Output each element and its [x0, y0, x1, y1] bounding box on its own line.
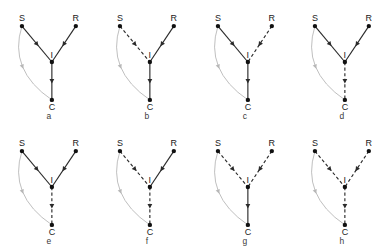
- edge-i-to-c-h: [343, 187, 348, 225]
- edge-i-to-c-g: [245, 187, 250, 225]
- edge-i-to-c-d: [343, 62, 348, 100]
- node-s-label: S: [214, 138, 220, 148]
- panel-a: SRICa: [0, 0, 98, 125]
- panel-caption-h: h: [340, 236, 345, 246]
- edge-s-to-i-d: [315, 26, 345, 62]
- edge-s-to-c-arc-a-path: [19, 26, 52, 100]
- node-r-dot: [74, 149, 78, 153]
- node-r-label: R: [366, 138, 373, 148]
- edge-s-to-c-arc-f-path: [116, 151, 149, 225]
- node-i-dot: [343, 185, 347, 189]
- panel-caption-e: e: [47, 236, 52, 246]
- edge-i-to-c-b: [147, 62, 152, 100]
- node-i-dot: [50, 60, 54, 64]
- panel-f: SRICf: [98, 125, 196, 250]
- panel-b: SRICb: [98, 0, 196, 125]
- node-i-dot: [50, 185, 54, 189]
- panel-f-canvas: SRICf: [98, 125, 196, 250]
- edge-s-to-c-arc-c-path: [214, 26, 247, 100]
- node-i-label: I: [51, 50, 54, 60]
- edge-i-to-c-a: [49, 62, 54, 100]
- panel-caption-b: b: [144, 111, 149, 121]
- node-r-label: R: [73, 138, 80, 148]
- edge-s-to-i-c: [217, 26, 247, 62]
- edge-s-to-i-g: [217, 151, 247, 187]
- panel-a-canvas: SRICa: [0, 0, 98, 125]
- node-s-dot: [20, 149, 24, 153]
- edge-s-to-i-g-arrowhead-icon: [229, 166, 234, 171]
- node-r-dot: [269, 149, 273, 153]
- panel-caption-a: a: [47, 111, 52, 121]
- node-s-label: S: [19, 13, 25, 23]
- edge-s-to-i-b: [120, 26, 150, 62]
- edge-s-to-c-arc-g-path: [214, 151, 247, 225]
- node-s-dot: [313, 149, 317, 153]
- edge-i-to-c-c: [245, 62, 250, 100]
- node-i-dot: [343, 60, 347, 64]
- panel-d-canvas: SRICd: [293, 0, 391, 125]
- node-s-dot: [215, 149, 219, 153]
- node-r-dot: [171, 24, 175, 28]
- edge-s-to-i-b-arrowhead-icon: [132, 41, 137, 46]
- panel-e: SRICe: [0, 125, 98, 250]
- node-s-dot: [117, 24, 121, 28]
- node-i-label: I: [344, 50, 347, 60]
- edge-r-to-i-a: [52, 26, 76, 62]
- edge-s-to-c-arc-f: [116, 151, 149, 225]
- panel-b-canvas: SRICb: [98, 0, 196, 125]
- edge-i-to-c-g-arrowhead-icon: [245, 204, 250, 209]
- node-i-dot: [245, 60, 249, 64]
- edge-s-to-c-arc-b-path: [116, 26, 149, 100]
- edge-s-to-i-f: [120, 151, 150, 187]
- node-s-label: S: [214, 13, 220, 23]
- edge-i-to-c-e-arrowhead-icon: [49, 204, 54, 209]
- node-i-dot: [147, 60, 151, 64]
- edge-r-to-i-g: [247, 151, 271, 187]
- node-r-dot: [74, 24, 78, 28]
- node-r-dot: [171, 149, 175, 153]
- node-i-label: I: [246, 175, 249, 185]
- node-r-label: R: [366, 13, 373, 23]
- edge-i-to-c-f: [147, 187, 152, 225]
- edge-s-to-c-arc-d: [312, 26, 345, 100]
- panel-caption-c: c: [242, 111, 247, 121]
- edge-s-to-c-arc-g: [214, 151, 247, 225]
- edge-s-to-c-arc-h-path: [312, 151, 345, 225]
- node-s-label: S: [117, 13, 123, 23]
- edge-s-to-c-arc-e: [19, 151, 52, 225]
- node-s-label: S: [117, 138, 123, 148]
- node-s-label: S: [312, 138, 318, 148]
- edge-i-to-c-b-arrowhead-icon: [147, 79, 152, 84]
- edge-s-to-i-h: [315, 151, 345, 187]
- node-s-dot: [117, 149, 121, 153]
- node-r-label: R: [170, 138, 177, 148]
- panel-g: SRICg: [196, 125, 294, 250]
- node-i-label: I: [344, 175, 347, 185]
- edge-r-to-i-e: [52, 151, 76, 187]
- node-i-label: I: [148, 175, 151, 185]
- node-i-dot: [245, 185, 249, 189]
- panel-caption-d: d: [340, 111, 345, 121]
- node-s-label: S: [312, 13, 318, 23]
- node-r-label: R: [73, 13, 80, 23]
- edge-s-to-c-arc-c: [214, 26, 247, 100]
- edge-s-to-c-arc-a: [19, 26, 52, 100]
- node-s-dot: [313, 24, 317, 28]
- edge-s-to-i-e: [22, 151, 52, 187]
- edge-s-to-c-arc-e-path: [19, 151, 52, 225]
- edge-r-to-i-f: [150, 151, 174, 187]
- panel-g-canvas: SRICg: [196, 125, 294, 250]
- edge-s-to-c-arc-b: [116, 26, 149, 100]
- edge-s-to-c-arc-d-path: [312, 26, 345, 100]
- node-r-label: R: [268, 138, 275, 148]
- edge-r-to-i-c: [247, 26, 271, 62]
- node-s-label: S: [19, 138, 25, 148]
- edge-s-to-c-arc-h: [312, 151, 345, 225]
- edge-i-to-c-f-arrowhead-icon: [147, 204, 152, 209]
- node-r-label: R: [170, 13, 177, 23]
- panel-h: SRICh: [293, 125, 391, 250]
- panel-caption-f: f: [145, 236, 148, 246]
- node-r-dot: [269, 24, 273, 28]
- edge-i-to-c-d-arrowhead-icon: [343, 79, 348, 84]
- panel-d: SRICd: [293, 0, 391, 125]
